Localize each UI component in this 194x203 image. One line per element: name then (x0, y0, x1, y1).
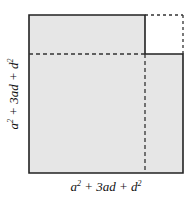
left-side-label: a2 + 3ad + d2 (6, 58, 22, 129)
label-exponent: 2 (6, 58, 15, 62)
diagram-canvas (0, 0, 194, 203)
label-exponent: 2 (6, 119, 15, 123)
label-term: + 3ad + d (6, 62, 21, 119)
label-exponent: 2 (138, 179, 142, 188)
shaded-region (29, 15, 183, 173)
label-term: + 3ad + d (81, 179, 138, 194)
label-term: a (6, 123, 21, 130)
bottom-side-label: a2 + 3ad + d2 (0, 179, 194, 195)
